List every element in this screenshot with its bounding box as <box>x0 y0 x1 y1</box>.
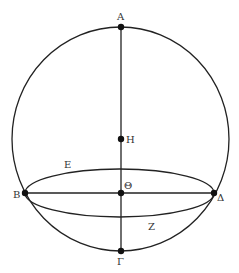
label-A: Α <box>116 11 125 22</box>
point-H <box>118 136 124 142</box>
label-E: Ε <box>64 159 71 170</box>
label-B: Β <box>13 189 20 200</box>
point-A <box>118 24 124 30</box>
sphere-diagram: Α Η Θ Β Δ Γ Ε Ζ <box>0 0 239 273</box>
point-Gamma <box>118 248 124 254</box>
label-H: Η <box>126 134 135 145</box>
label-Z: Ζ <box>148 221 155 232</box>
label-Delta: Δ <box>217 192 224 203</box>
label-Gamma: Γ <box>117 256 124 267</box>
point-B <box>22 190 28 196</box>
label-Theta: Θ <box>124 180 132 191</box>
